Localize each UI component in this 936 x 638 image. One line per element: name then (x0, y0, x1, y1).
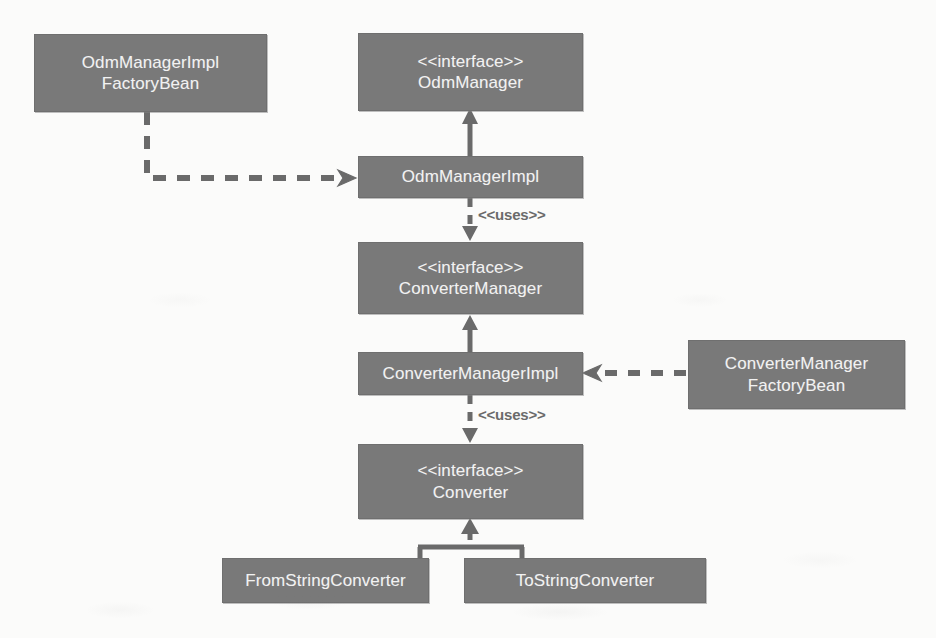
uses-label-odm-to-converter-manager: <<uses>> (478, 206, 546, 223)
node-label: <<interface>> ConverterManager (393, 257, 548, 300)
node-label: ToStringConverter (510, 570, 661, 591)
converter-manager-impl[interactable]: ConverterManagerImpl (358, 352, 583, 395)
from-string-converter[interactable]: FromStringConverter (222, 558, 429, 603)
odm-manager-interface[interactable]: <<interface>> OdmManager (358, 33, 583, 111)
to-string-converter[interactable]: ToStringConverter (464, 558, 706, 603)
converter-manager-factory-bean[interactable]: ConverterManager FactoryBean (688, 340, 905, 409)
uses-label-text: <<uses>> (478, 406, 546, 423)
uses-label-converter-manager-to-converter: <<uses>> (478, 406, 546, 423)
realization-odm-manager-impl-to-odm-manager (462, 108, 478, 156)
node-label: OdmManagerImpl FactoryBean (76, 52, 225, 95)
odm-manager-impl-factory-bean[interactable]: OdmManagerImpl FactoryBean (34, 34, 267, 112)
node-label: ConverterManager FactoryBean (719, 353, 874, 396)
converter-interface[interactable]: <<interface>> Converter (358, 444, 583, 519)
node-label: <<interface>> Converter (411, 460, 529, 503)
realization-converters-fork (418, 518, 524, 559)
node-label: OdmManagerImpl (396, 166, 545, 187)
dependency-converter-manager-impl-to-converter (462, 395, 478, 443)
odm-manager-impl[interactable]: OdmManagerImpl (358, 156, 583, 198)
realization-converter-manager-impl-to-converter-manager (462, 315, 478, 352)
dependency-odm-manager-impl-to-converter-manager (462, 198, 478, 241)
uses-label-text: <<uses>> (478, 206, 546, 223)
dependency-converter-factory-bean-to-converter-manager-impl (583, 365, 686, 381)
dependency-odm-factory-bean-to-odm-manager-impl (147, 112, 356, 186)
node-label: FromStringConverter (239, 570, 412, 591)
node-label: <<interface>> OdmManager (411, 51, 529, 94)
converter-manager-interface[interactable]: <<interface>> ConverterManager (358, 242, 583, 314)
uml-class-diagram: OdmManagerImpl --> OdmManager --> Conver… (0, 0, 936, 638)
node-label: ConverterManagerImpl (377, 363, 565, 384)
